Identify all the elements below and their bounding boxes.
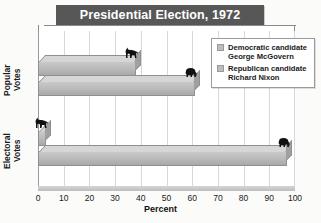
gridline-60 <box>192 31 193 191</box>
x-tick-10: 10 <box>52 193 76 203</box>
chart-title: Presidential Election, 1972 <box>80 8 240 22</box>
legend-label-democratic-line2: George McGovern <box>228 52 307 61</box>
x-tick-90: 90 <box>257 193 281 203</box>
bar-top-face <box>39 145 293 152</box>
bar-popular-mcgovern <box>38 61 136 76</box>
legend-label-republican-line1: Republican candidate <box>228 64 307 73</box>
legend-label-republican: Republican candidate Richard Nixon <box>228 64 307 82</box>
legend-item-republican: Republican candidate Richard Nixon <box>216 64 310 82</box>
plot-back-edge <box>44 25 296 26</box>
donkey-icon <box>34 117 49 129</box>
x-tick-100: 100 <box>283 193 307 203</box>
x-tick-0: 0 <box>26 193 50 203</box>
x-tick-70: 70 <box>206 193 230 203</box>
y-category-electoral-votes: Electoral Votes <box>2 120 32 182</box>
x-tick-60: 60 <box>180 193 204 203</box>
gridline-0 <box>38 31 39 191</box>
elephant-icon <box>183 67 198 79</box>
y-category-popular-votes: Popular Votes <box>2 50 32 110</box>
x-tick-30: 30 <box>103 193 127 203</box>
legend-swatch-democratic <box>217 44 224 51</box>
legend: Democratic candidate George McGovern Rep… <box>211 38 315 88</box>
bar-electoral-mcgovern <box>38 131 46 146</box>
x-tick-50: 50 <box>155 193 179 203</box>
legend-label-democratic-line1: Democratic candidate <box>228 43 307 52</box>
bar-top-face <box>39 75 200 82</box>
gridline-50 <box>167 31 168 191</box>
presidential-election-bar-chart: Presidential Election, 1972 <box>0 0 321 223</box>
legend-item-democratic: Democratic candidate George McGovern <box>216 43 310 61</box>
legend-label-democratic: Democratic candidate George McGovern <box>228 43 307 61</box>
donkey-icon <box>124 47 139 59</box>
x-tick-40: 40 <box>129 193 153 203</box>
chart-title-banner: Presidential Election, 1972 <box>56 5 264 25</box>
x-tick-80: 80 <box>232 193 256 203</box>
bar-electoral-nixon <box>38 151 287 166</box>
x-axis-title: Percent <box>0 204 321 214</box>
bar-popular-nixon <box>38 81 195 96</box>
elephant-icon <box>276 137 291 149</box>
legend-label-republican-line2: Richard Nixon <box>228 73 307 82</box>
legend-swatch-republican <box>217 65 224 72</box>
x-tick-20: 20 <box>77 193 101 203</box>
x-axis-band <box>38 186 295 191</box>
